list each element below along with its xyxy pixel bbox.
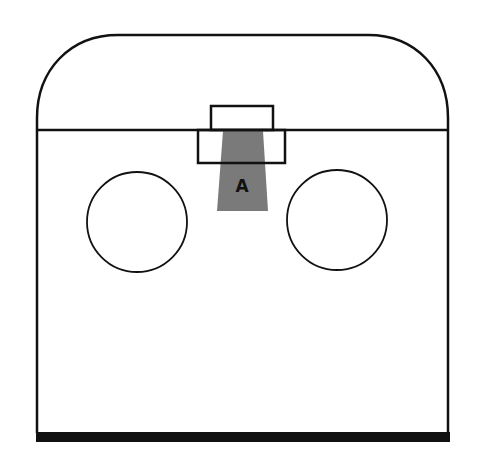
right-circle bbox=[287, 170, 387, 270]
label-a: A bbox=[235, 176, 249, 196]
outer-outline bbox=[37, 35, 448, 433]
base-bar bbox=[36, 432, 450, 442]
left-circle bbox=[87, 172, 187, 272]
diagram-canvas: A bbox=[0, 0, 478, 465]
shaded-region-a bbox=[217, 131, 268, 211]
upper-box bbox=[211, 106, 273, 130]
